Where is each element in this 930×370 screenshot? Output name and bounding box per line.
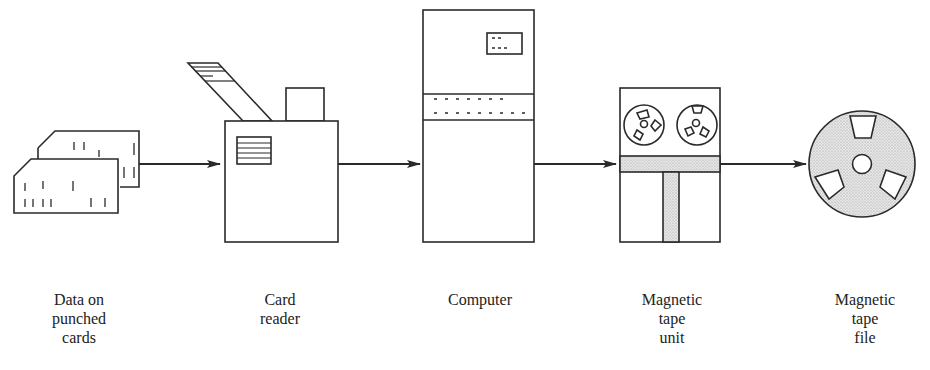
label-tape-file: Magnetic tape file [815,290,915,347]
label-computer: Computer [430,290,530,309]
tape-file-icon [809,111,915,217]
label-card-reader: Card reader [235,290,325,328]
punched-cards-icon [14,131,139,213]
computer-icon [423,10,534,242]
data-flow-diagram [0,0,930,370]
label-punched-cards: Data on punched cards [34,290,124,347]
card-reader-icon [188,63,338,242]
tape-unit-icon [620,88,720,242]
label-tape-unit: Magnetic tape unit [622,290,722,347]
